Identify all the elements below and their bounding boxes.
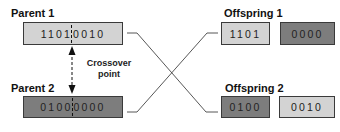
parent1-title: Parent 1 [11,7,54,19]
crossover-divider [71,25,72,43]
offspring1-segment-2: 0000 [280,22,335,45]
parent2-left-bits: 0100 [40,101,72,113]
parent2-title: Parent 2 [11,82,54,94]
parent2-chromosome: 0100 0000 [23,96,123,118]
offspring2-segment-1: 0100 [221,96,270,118]
parent2-right-bits: 0000 [74,101,106,113]
offspring1-segment-1-bits: 1101 [230,28,261,40]
offspring1-segment-1: 1101 [221,22,270,45]
connector-parent2-to-offspring1 [127,33,218,112]
parent1-left-bits: 1101 [41,28,72,40]
offspring2-segment-1-bits: 0100 [229,101,261,113]
offspring2-segment-2-bits: 0010 [291,101,323,113]
crossover-point-label: Crossover point [84,58,134,80]
crossover-label-line2: point [84,69,134,80]
crossover-label-line1: Crossover [84,58,134,69]
offspring1-segment-2-bits: 0000 [291,28,323,40]
crossover-double-arrow-icon [69,46,76,94]
parent1-chromosome: 1101 0010 [23,22,123,45]
offspring1-title: Offspring 1 [224,7,283,19]
crossover-divider [72,98,73,116]
parent1-right-bits: 0010 [73,28,105,40]
offspring2-title: Offspring 2 [225,82,284,94]
offspring2-segment-2: 0010 [279,96,335,118]
